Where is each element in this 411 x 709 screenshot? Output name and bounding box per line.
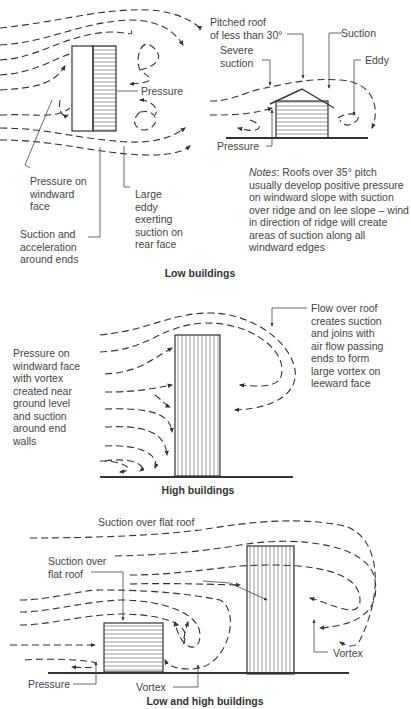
high-building	[100, 335, 293, 477]
notes-body: : Roofs over 35° pitch usually develop p…	[249, 166, 409, 253]
label-suction: Suction	[341, 27, 376, 40]
label-suction-acceleration: Suction and acceleration around ends	[20, 228, 78, 266]
label-pressure-windward-face: Pressure on windward face	[30, 175, 87, 213]
notes-prefix: Notes	[249, 166, 276, 178]
label-eddy: Eddy	[365, 54, 389, 67]
label-combined-pressure: Pressure	[28, 678, 70, 691]
combined-flow	[10, 521, 376, 669]
label-severe-suction: Severe suction	[220, 44, 253, 69]
notes-text: Notes: Roofs over 35° pitch usually deve…	[249, 166, 411, 254]
label-pitched-roof: Pitched roof of less than 30°	[210, 16, 283, 41]
label-suction-flat-roof-high: Suction over flat roof	[98, 516, 194, 529]
label-section-pressure: Pressure	[217, 140, 259, 153]
caption-high-buildings: High buildings	[100, 484, 296, 496]
label-high-pressure-windward: Pressure on windward face with vortex cr…	[13, 347, 80, 447]
label-plan-pressure: Pressure	[141, 85, 183, 98]
caption-low-buildings: Low buildings	[100, 267, 300, 279]
plan-building	[72, 46, 116, 131]
label-large-eddy: Large eddy exerting suction on rear face	[135, 188, 183, 251]
caption-low-and-high-buildings: Low and high buildings	[100, 695, 310, 707]
label-flow-over-roof: Flow over roof creates suction and joins…	[311, 302, 383, 390]
label-vortex-bottom: Vortex	[136, 681, 166, 694]
label-suction-flat-roof-low: Suction over flat roof	[48, 555, 106, 580]
label-vortex-right: Vortex	[333, 647, 363, 660]
